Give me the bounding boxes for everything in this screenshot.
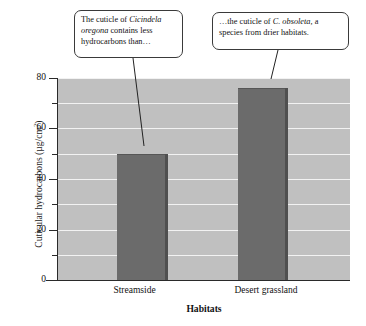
bar-top-edge: [117, 154, 165, 155]
gridline-30: [58, 204, 350, 205]
annotation-right-part1: …the cuticle of: [219, 17, 273, 26]
annotation-callout-right[interactable]: …the cuticle of C. obsoleta, a species f…: [212, 12, 349, 50]
bar-desert-grassland[interactable]: [238, 88, 288, 280]
y-tick-70: [52, 103, 57, 104]
y-tick-30: [52, 204, 57, 205]
bar-streamside[interactable]: [117, 154, 168, 280]
y-axis-title-main: Cuticular hydrocarbons (µg/cm: [33, 127, 44, 248]
annotation-left-part1: The cuticle of: [81, 15, 129, 24]
gridline-40: [58, 179, 350, 180]
y-tick-60: [49, 128, 57, 129]
y-tick-20: [49, 230, 57, 231]
annotation-right-species: C. obsoleta,: [273, 17, 313, 26]
leader-line-right: [271, 50, 278, 79]
plot-area: [58, 78, 350, 280]
x-axis-title: Habitats: [58, 303, 350, 314]
figure-bar-chart: 80 60 40 20 0 Cuticular hydrocarbons (µg…: [0, 0, 366, 326]
y-tick-50: [52, 154, 57, 155]
bar-top-edge: [238, 88, 285, 89]
y-tick-0: [49, 280, 57, 281]
gridline-80: [58, 78, 350, 79]
y-tick-10: [52, 255, 57, 256]
x-tick-label-desert-grassland: Desert grassland: [208, 285, 324, 295]
gridline-60: [58, 128, 350, 129]
y-axis-line: [57, 78, 58, 281]
y-axis-title: Cuticular hydrocarbons (µg/cm2): [32, 84, 44, 284]
x-tick-label-streamside: Streamside: [87, 285, 182, 295]
y-axis-title-tail: ): [33, 121, 44, 124]
gridline-20: [58, 230, 350, 231]
x-axis-line: [46, 280, 350, 281]
gridline-50: [58, 154, 350, 155]
gridline-70: [58, 103, 350, 104]
y-tick-40: [49, 179, 57, 180]
gridline-10: [58, 255, 350, 256]
y-tick-80: [49, 78, 57, 79]
annotation-callout-left[interactable]: The cuticle of Cicindela oregona contain…: [74, 10, 183, 58]
y-tick-label-80: 80: [20, 72, 46, 82]
y-axis-title-superscript: 2: [32, 124, 39, 127]
